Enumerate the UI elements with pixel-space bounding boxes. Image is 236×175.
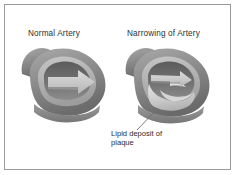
callout-label-line-2: plaque xyxy=(111,138,173,147)
normal-artery-illustration xyxy=(22,48,106,122)
callout-label-line-1: Lipid deposit of xyxy=(111,129,162,138)
narrowing-artery-illustration xyxy=(126,48,210,130)
artery-illustration xyxy=(0,0,236,175)
artery-comparison-figure: Normal Artery Narrowing of Artery Lipid … xyxy=(0,0,236,175)
callout-label-lipid-plaque: Lipid deposit of plaque xyxy=(111,129,173,147)
panel-title-narrowing-artery: Narrowing of Artery xyxy=(127,29,200,38)
panel-title-normal-artery: Normal Artery xyxy=(28,29,80,38)
